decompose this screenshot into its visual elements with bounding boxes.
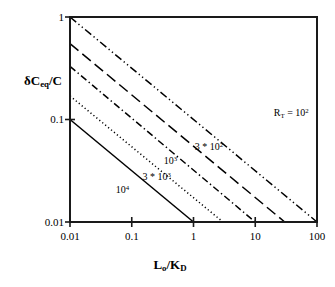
- chart-canvas: [0, 0, 335, 287]
- curve-label-2: 3 * 102: [195, 142, 223, 152]
- x-tick-label-0: 0.01: [45, 231, 95, 242]
- y-tick-label-0: 1: [20, 12, 64, 23]
- curve-label-1-text: R: [274, 107, 281, 118]
- curve-label-5-sup: 4: [126, 184, 129, 191]
- x-tick-label-1: 0.1: [107, 231, 157, 242]
- y-axis-title-tail: /C: [49, 73, 62, 88]
- x-tick-label-3: 10: [230, 231, 280, 242]
- curve-label-5: 104: [116, 185, 129, 195]
- x-tick-label-4: 100: [292, 231, 335, 242]
- curve-label-3: 103: [164, 156, 177, 166]
- x-axis-title-main: L: [153, 257, 162, 272]
- x-axis-title-mid: /K: [166, 257, 180, 272]
- curve-label-1-eq: = 10: [285, 107, 306, 118]
- y-axis-title: δCeq/C: [24, 74, 62, 89]
- y-tick-label-2: 0.01: [20, 217, 64, 228]
- x-tick-label-2: 1: [169, 231, 219, 242]
- chart-figure: 10.10.01 0.010.1110100 RT = 1023 * 10210…: [0, 0, 335, 287]
- curve-label-4-text: 3 * 10: [143, 171, 168, 182]
- curve-label-5-text: 10: [116, 184, 126, 195]
- curve-label-4-sup: 3: [168, 171, 171, 178]
- x-axis-title: Lo/KD: [153, 258, 186, 273]
- curve-label-1-sup: 2: [305, 107, 308, 114]
- curve-2: [70, 44, 285, 222]
- y-axis-title-sub: eq: [40, 79, 49, 89]
- curve-4: [70, 96, 223, 222]
- y-tick-label-1: 0.1: [20, 114, 64, 125]
- curve-label-2-sup: 2: [220, 141, 223, 148]
- curve-label-2-text: 3 * 10: [195, 141, 220, 152]
- curve-label-3-text: 10: [164, 155, 174, 166]
- curve-label-4: 3 * 103: [143, 172, 171, 182]
- curve-label-1: RT = 102: [274, 108, 309, 119]
- curve-5: [70, 120, 194, 223]
- y-axis-title-delta: δC: [24, 73, 40, 88]
- curve-label-3-sup: 3: [174, 155, 177, 162]
- x-axis-title-sub2: D: [180, 263, 186, 273]
- curve-3: [70, 66, 255, 222]
